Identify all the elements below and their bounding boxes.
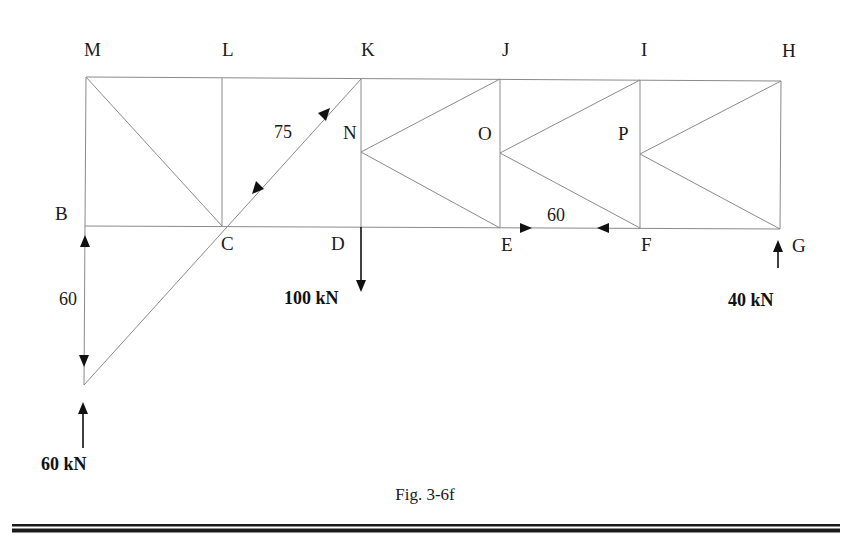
label-N: N [343,122,357,143]
external-loads [78,227,783,448]
member-MC [86,77,222,226]
label-H: H [782,40,796,61]
bottom-rule [12,524,840,533]
member-PG [640,154,780,229]
arrow-ef-left-icon [597,223,609,233]
label-G: G [792,235,806,256]
label-E: E [501,234,513,255]
value-G-support: 40 kN [728,290,774,310]
label-B: B [55,203,68,224]
value-left-support: 60 kN [41,454,87,474]
label-L: L [222,39,234,60]
bottom-chord [85,226,780,229]
label-K: K [361,39,375,60]
label-I: I [641,39,647,60]
label-C: C [221,233,234,254]
value-EF: 60 [547,205,565,225]
member-MB [85,77,86,226]
value-D-load: 100 kN [284,288,339,308]
label-O: O [478,123,492,144]
label-F: F [641,234,652,255]
arrow-left-support-icon [78,402,88,414]
arrow-G-support-icon [773,240,783,252]
label-J: J [502,39,509,60]
member-NE [361,152,500,228]
label-M: M [84,39,101,60]
top-chord [86,77,781,81]
label-D: D [331,233,345,254]
figure-caption: Fig. 3-6f [395,485,455,504]
force-values: 75 60 60 60 kN 100 kN 40 kN [41,122,774,474]
member-PH [640,81,781,154]
arrow-D-load-icon [356,280,366,292]
value-B-vertical: 60 [59,289,77,309]
truss-diagram: M L K J I H B C D E F G N O P 75 60 60 6… [0,0,854,541]
node-labels: M L K J I H B C D E F G N O P [55,39,806,256]
arrow-ef-right-icon [520,223,532,233]
value-CK: 75 [274,122,292,142]
truss-members [84,77,781,385]
member-HG [780,81,781,229]
label-P: P [618,123,629,144]
member-OF [500,153,640,228]
arrow-b-down-icon [79,355,89,367]
arrow-b-up-icon [80,235,90,247]
